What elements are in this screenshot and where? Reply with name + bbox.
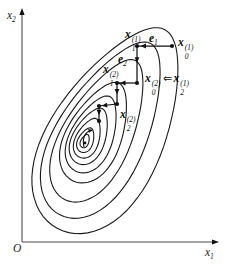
label-x1-superscript-1: x(1)1 (125, 29, 141, 53)
origin-label: O (13, 243, 21, 255)
iterate-point-2 (135, 81, 139, 85)
search-step-arrow-icon-3 (115, 89, 120, 95)
search-step-arrow-icon-5 (97, 110, 102, 116)
iterate-point-5 (97, 104, 101, 108)
search-step-arrow-icon-0 (141, 44, 147, 49)
contour-line-0 (32, 28, 178, 234)
iterate-point-0 (170, 44, 174, 48)
iterate-point-4 (115, 102, 119, 106)
label-e2-direction: e2 (118, 54, 127, 68)
y-axis-arrow-icon (19, 8, 24, 15)
x-axis-arrow-icon (212, 239, 219, 244)
x-axis-label: x1 (205, 247, 214, 261)
iterate-point-6 (97, 119, 101, 123)
label-x0-superscript-1: x(1)0 (178, 37, 194, 61)
contour-plot (0, 0, 231, 264)
iterate-point-7 (84, 142, 87, 145)
label-assignment-x0-2-from-x2-1: x(2)0⇐x(1)2 (145, 73, 189, 97)
contour-line-5 (69, 108, 107, 164)
leftwards-double-arrow-icon: ⇐ (163, 72, 172, 84)
label-x1-superscript-2: x(2)1 (103, 64, 119, 88)
label-e1-direction: e1 (149, 33, 158, 47)
y-axis-label: x2 (7, 10, 16, 24)
contour-descent-figure: x2 O x1 x(1)1 e1 x(1)0 e2 x(2)1 x(2)0⇐x(… (0, 0, 231, 264)
label-x2-superscript-2: x(2)2 (120, 109, 136, 133)
